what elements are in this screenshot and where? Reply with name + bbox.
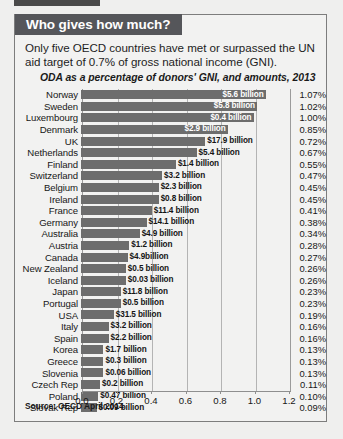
percent-label: 0.55% <box>289 159 326 170</box>
bar <box>81 183 159 192</box>
category-label: Sweden <box>15 101 80 112</box>
bar <box>81 310 114 319</box>
source-note: Source: OECD April 2014 <box>25 401 124 411</box>
category-label: Greece <box>15 356 80 367</box>
axis-tick-label: 1.0 <box>248 395 261 406</box>
axis-tick <box>82 391 83 394</box>
axis-tick <box>117 391 118 394</box>
bar <box>81 357 103 366</box>
chart-row: Switzerland$3.2 billion0.47% <box>15 170 328 182</box>
bar <box>81 195 159 204</box>
bar <box>81 206 152 215</box>
percent-label: 0.28% <box>289 240 326 251</box>
chart-row: Austria$1.2 billion0.28% <box>15 240 328 252</box>
bar <box>81 264 126 273</box>
category-label: Iceland <box>15 275 80 286</box>
category-label: Denmark <box>15 124 80 135</box>
infographic-panel: Who gives how much? Only five OECD count… <box>14 14 327 422</box>
bar-track: $5.6 billion <box>80 89 289 101</box>
category-label: Luxembourg <box>15 112 80 123</box>
percent-label: 0.72% <box>289 136 326 147</box>
axis-tick <box>289 391 290 394</box>
chart-row: Czech Rep$0.2 billion0.11% <box>15 379 328 391</box>
chart-row: France$11.4 billion0.41% <box>15 205 328 217</box>
category-label: USA <box>15 310 80 321</box>
chart-row: UK$17.9 billion0.72% <box>15 135 328 147</box>
bar-value-label: $0.03 billion <box>128 275 174 285</box>
category-label: Czech Rep <box>15 379 80 390</box>
bar <box>81 299 121 308</box>
percent-label: 0.38% <box>289 217 326 228</box>
category-label: Switzerland <box>15 170 80 181</box>
axis-tick <box>220 391 221 394</box>
category-label: Italy <box>15 321 80 332</box>
percent-label: 0.47% <box>289 170 326 181</box>
category-label: Finland <box>15 159 80 170</box>
bar-value-label: $11.4 billion <box>154 206 199 216</box>
chart-row: Sweden$5.8 billion1.02% <box>15 101 328 113</box>
bar-value-label: $2.3 billion <box>161 182 202 192</box>
bar-value-label: $0.5 billion <box>128 264 169 274</box>
percent-label: 0.23% <box>289 286 326 297</box>
bar-value-label: $3.2 billion <box>164 171 205 181</box>
bar-track: $0.4 billion <box>80 112 289 124</box>
chart-row: Finland$1.4 billion0.55% <box>15 159 328 171</box>
bar-value-label: $0.2 billion <box>102 379 143 389</box>
bar-chart: Norway$5.6 billion1.07%Sweden$5.8 billio… <box>15 87 328 423</box>
bar-value-label: $5.8 billion <box>214 101 255 111</box>
chart-row: Ireland$0.8 billion0.45% <box>15 193 328 205</box>
percent-label: 0.16% <box>289 333 326 344</box>
category-label: Canada <box>15 252 80 263</box>
percent-label: 0.67% <box>289 147 326 158</box>
percent-label: 1.02% <box>289 101 326 112</box>
percent-label: 0.13% <box>289 368 326 379</box>
bar-value-label: $1.4 billion <box>178 159 219 169</box>
chart-row: New Zealand$0.5 billion0.26% <box>15 263 328 275</box>
bar-value-label: $0.06 billion <box>105 368 151 378</box>
chart-row: Australia$4.9 billion0.34% <box>15 228 328 240</box>
percent-label: 0.45% <box>289 194 326 205</box>
bar <box>81 160 176 169</box>
axis-tick <box>151 391 152 394</box>
category-label: Portugal <box>15 298 80 309</box>
bar-value-label: $0.8 billion <box>161 194 202 204</box>
category-label: Slovenia <box>15 368 80 379</box>
bar-track: $14.1 billion <box>80 217 289 229</box>
bar-track: $5.4 billion <box>80 147 289 159</box>
bar <box>81 322 109 331</box>
panel-header-tab: Who gives how much? <box>15 14 182 35</box>
bar-track: $1.4 billion <box>80 159 289 171</box>
chart-row: Portugal$0.5 billion0.23% <box>15 298 328 310</box>
percent-label: 0.34% <box>289 228 326 239</box>
chart-row: Canada$4.9billion0.27% <box>15 251 328 263</box>
bar-track: $3.2 billion <box>80 170 289 182</box>
bar-value-label: $2.9 billion <box>185 124 226 134</box>
percent-label: 0.41% <box>289 205 326 216</box>
bar-track: $2.3 billion <box>80 182 289 194</box>
bar <box>81 229 140 238</box>
bar <box>81 334 109 343</box>
bar-value-label: $2.2 billion <box>111 333 152 343</box>
bar <box>81 171 162 180</box>
chart-row: Korea$1.7 billion0.13% <box>15 344 328 356</box>
bar-track: $5.8 billion <box>80 101 289 113</box>
bar-track: $0.03 billion <box>80 275 289 287</box>
category-label: France <box>15 205 80 216</box>
bar-value-label: $0.3 billion <box>105 356 146 366</box>
bar-track: $11.4 billion <box>80 205 289 217</box>
bar-track: $0.06 billion <box>80 367 289 379</box>
bar <box>81 368 103 377</box>
chart-row: Iceland$0.03 billion0.26% <box>15 275 328 287</box>
bar-value-label: $1.2 billion <box>131 240 172 250</box>
percent-label: 1.07% <box>289 89 326 100</box>
bar-value-label: $5.6 billion <box>222 90 263 100</box>
axis-tick <box>255 391 256 394</box>
chart-rows: Norway$5.6 billion1.07%Sweden$5.8 billio… <box>15 89 328 391</box>
percent-label: 0.19% <box>289 310 326 321</box>
category-label: Australia <box>15 228 80 239</box>
x-axis <box>82 391 291 392</box>
bar-value-label: $1.7 billion <box>105 345 146 355</box>
bar-value-label: $4.9 billion <box>142 229 183 239</box>
bar-track: $4.9billion <box>80 251 289 263</box>
bar <box>81 380 100 389</box>
